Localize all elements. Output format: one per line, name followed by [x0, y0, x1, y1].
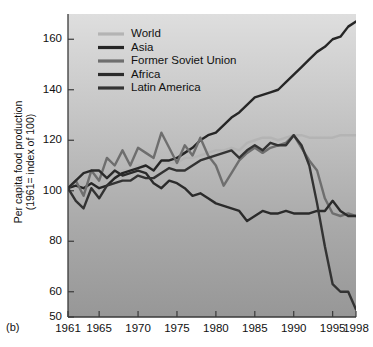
- x-tick-label-1990: 1990: [281, 322, 307, 334]
- legend-label-africa: Africa: [131, 68, 160, 80]
- legend-label-former-soviet-union: Former Soviet Union: [131, 54, 236, 66]
- y-tick-label-60: 60: [28, 285, 62, 297]
- x-tick-label-1998: 1998: [343, 322, 369, 334]
- y-tick-label-120: 120: [28, 133, 62, 145]
- legend-label-asia: Asia: [131, 41, 153, 53]
- y-tick-label-50: 50: [28, 310, 62, 322]
- x-tick-label-1961: 1961: [55, 322, 81, 334]
- y-tick-label-100: 100: [28, 184, 62, 196]
- figure-panel-b: Per capita food production (1961= index …: [0, 0, 373, 347]
- x-tick-label-1980: 1980: [203, 322, 229, 334]
- x-tick-label-1970: 1970: [125, 322, 151, 334]
- legend-label-latin-america: Latin America: [131, 81, 201, 93]
- x-tick-label-1995: 1995: [320, 322, 346, 334]
- x-tick-label-1965: 1965: [86, 322, 112, 334]
- y-tick-label-140: 140: [28, 83, 62, 95]
- x-tick-label-1985: 1985: [242, 322, 268, 334]
- legend-label-world: World: [131, 27, 161, 39]
- y-tick-label-80: 80: [28, 234, 62, 246]
- x-tick-label-1975: 1975: [164, 322, 190, 334]
- y-tick-label-160: 160: [28, 32, 62, 44]
- panel-label: (b): [6, 321, 19, 333]
